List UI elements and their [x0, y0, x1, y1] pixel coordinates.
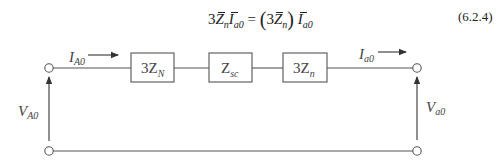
terminal-bottom-right [413, 147, 421, 155]
impedance-label-3zn-upper: 3ZN [141, 60, 166, 79]
terminal-top-right [413, 64, 421, 72]
impedance-label-zsc: Zsc [221, 60, 239, 79]
voltage-label-right: Va0 [426, 99, 445, 117]
current-label-right: Ia0 [358, 46, 374, 64]
current-label-left: IA0 [68, 49, 85, 67]
terminal-top-left [45, 64, 53, 72]
circuit-diagram: 3ZN Zsc 3Zn IA0 Ia0 VA0 Va0 [0, 0, 498, 165]
voltage-label-left: VA0 [18, 103, 38, 121]
terminal-bottom-left [45, 147, 53, 155]
impedance-label-3zn-lower: 3Zn [293, 60, 315, 79]
